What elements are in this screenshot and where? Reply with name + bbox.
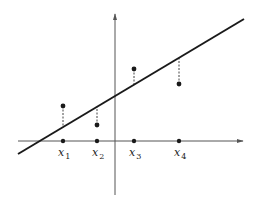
x-tick-point — [132, 139, 136, 143]
x-tick-label: x4 — [174, 146, 186, 161]
data-point — [95, 123, 100, 128]
data-point — [61, 104, 66, 109]
regression-line-path — [18, 19, 244, 154]
regression-diagram: x1x2x3x4 — [0, 0, 259, 208]
x-tick-label: x1 — [58, 146, 70, 161]
x-tick-point — [177, 139, 181, 143]
x-tick-label: x2 — [92, 146, 104, 161]
data-point — [132, 67, 137, 72]
x-tick-point — [95, 139, 99, 143]
x-tick-point — [61, 139, 65, 143]
x-tick-label: x3 — [129, 146, 141, 161]
data-point — [177, 82, 182, 87]
x-tick-labels: x1x2x3x4 — [58, 146, 186, 161]
regression-line — [18, 19, 244, 154]
